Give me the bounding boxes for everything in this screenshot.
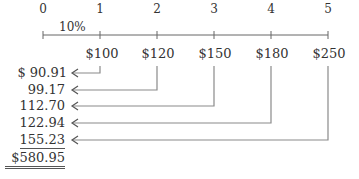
period-label-5: 5: [324, 2, 332, 16]
present-value-total: $580.95: [5, 151, 65, 169]
arrow-period-2: [73, 66, 157, 90]
period-label-0: 0: [39, 2, 47, 16]
present-value-2: 99.17: [5, 83, 65, 97]
interest-rate-label: 10%: [59, 20, 86, 34]
present-value-5: 155.23: [5, 133, 65, 147]
cash-flow-3: $150: [198, 47, 231, 61]
cash-flow-1: $100: [85, 47, 118, 61]
arrow-period-4: [73, 66, 271, 123]
period-label-2: 2: [153, 2, 161, 16]
cash-flow-5: $250: [312, 47, 345, 61]
arrow-period-5: [73, 66, 328, 140]
cash-flow-4: $180: [255, 47, 288, 61]
arrow-period-3: [73, 66, 214, 106]
present-value-1: $ 90.91: [7, 66, 67, 80]
period-label-3: 3: [210, 2, 218, 16]
present-value-4: 122.94: [5, 116, 65, 130]
discount-arrows: [73, 66, 328, 140]
sum-underline: [20, 148, 65, 149]
period-label-1: 1: [96, 2, 104, 16]
period-label-4: 4: [267, 2, 275, 16]
cash-flow-2: $120: [141, 47, 174, 61]
present-value-3: 112.70: [5, 99, 65, 113]
